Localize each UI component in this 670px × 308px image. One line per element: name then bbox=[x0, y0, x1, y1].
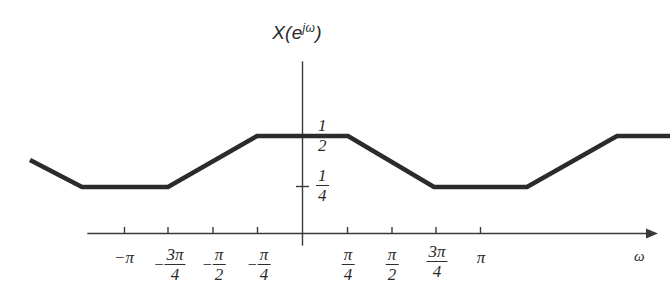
x-tick-neg-3pi-4-denominator: 4 bbox=[165, 265, 186, 283]
x-tick-pi-4-numerator: π bbox=[342, 246, 355, 265]
x-tick-label-neg-3pi-4: − 3π 4 bbox=[154, 246, 185, 283]
title-exponent: jω bbox=[303, 21, 316, 35]
x-tick-label-pi-text: π bbox=[477, 249, 486, 266]
signal-trace bbox=[30, 136, 670, 187]
x-tick-label-neg-pi-2: − π 2 bbox=[203, 246, 226, 283]
x-tick-label-pi-2: π 2 bbox=[386, 246, 399, 283]
y-tick-label-half: 1 2 bbox=[316, 117, 329, 154]
x-tick-3pi-4-denominator: 4 bbox=[426, 262, 447, 280]
title-close: ) bbox=[315, 22, 322, 43]
x-tick-neg-pi-4-numerator: π bbox=[258, 246, 271, 265]
x-tick-label-neg-pi-4: − π 4 bbox=[248, 246, 271, 283]
x-tick-neg-pi-2-sign: − bbox=[203, 257, 212, 273]
x-tick-label-neg-pi-text: −π bbox=[114, 249, 134, 266]
x-tick-label-3pi-4: 3π 4 bbox=[426, 243, 447, 280]
plot-canvas bbox=[0, 0, 670, 308]
x-tick-label-pi: π bbox=[477, 248, 486, 266]
x-tick-pi-4-denominator: 4 bbox=[342, 265, 355, 283]
x-tick-neg-pi-2-numerator: π bbox=[213, 246, 226, 265]
x-tick-label-neg-pi: −π bbox=[114, 248, 134, 266]
x-tick-pi-2-numerator: π bbox=[386, 246, 399, 265]
x-axis-arrowhead bbox=[646, 229, 658, 239]
y-quarter-numerator: 1 bbox=[316, 167, 329, 186]
title-base: X(e bbox=[272, 22, 302, 43]
x-tick-neg-pi-2-denominator: 2 bbox=[213, 265, 226, 283]
y-quarter-denominator: 4 bbox=[316, 186, 329, 204]
x-tick-neg-3pi-4-sign: − bbox=[154, 257, 163, 273]
x-tick-neg-pi-4-sign: − bbox=[248, 257, 257, 273]
x-tick-neg-3pi-4-numerator: 3π bbox=[165, 246, 186, 265]
dtft-figure: X(ejω) 1 2 1 4 −π − 3π 4 − π 2 − π bbox=[0, 0, 670, 308]
x-tick-label-pi-4: π 4 bbox=[342, 246, 355, 283]
figure-title: X(ejω) bbox=[272, 22, 322, 42]
x-tick-3pi-4-numerator: 3π bbox=[426, 243, 447, 262]
y-half-denominator: 2 bbox=[316, 136, 329, 154]
x-tick-neg-pi-4-denominator: 4 bbox=[258, 265, 271, 283]
y-tick-label-quarter: 1 4 bbox=[316, 167, 329, 204]
y-half-numerator: 1 bbox=[316, 117, 329, 136]
x-tick-pi-2-denominator: 2 bbox=[386, 265, 399, 283]
x-axis-label: ω bbox=[634, 249, 645, 264]
